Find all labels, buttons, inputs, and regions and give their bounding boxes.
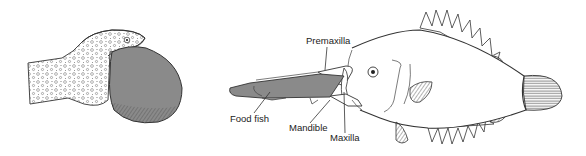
right-fish-body	[352, 30, 526, 128]
right-fish-illustration	[230, 10, 562, 144]
mandible-bone	[330, 94, 362, 106]
label-food-fish: Food fish	[230, 113, 269, 124]
label-premaxilla: Premaxilla	[306, 35, 351, 46]
fish-feeding-diagram: Premaxilla Food fish Mandible Maxilla	[0, 0, 586, 156]
caudal-fin	[523, 75, 562, 110]
label-maxilla: Maxilla	[330, 132, 360, 143]
label-mandible: Mandible	[289, 122, 328, 133]
left-fish-illustration	[28, 30, 182, 123]
leader-premaxilla	[325, 47, 327, 70]
food-fish	[230, 74, 344, 98]
